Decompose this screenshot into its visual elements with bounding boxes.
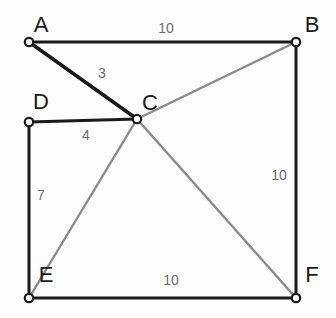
node-label-b: B (305, 12, 320, 37)
node-label-c: C (142, 90, 158, 115)
node-label-group: ABCDEF (33, 12, 319, 287)
edge-weight-d-c: 4 (82, 127, 90, 143)
light-edge-group (29, 42, 296, 298)
node-group (25, 38, 300, 302)
edge-weight-e-f: 10 (163, 272, 179, 288)
graph-canvas: 103471010 ABCDEF (0, 0, 336, 318)
edge-weight-b-f: 10 (271, 167, 287, 183)
node-d[interactable] (25, 118, 33, 126)
node-f[interactable] (292, 294, 300, 302)
edge-c-f (137, 119, 296, 298)
node-e[interactable] (25, 294, 33, 302)
node-label-e: E (39, 262, 54, 287)
edge-weight-label-group: 103471010 (37, 20, 287, 288)
node-c[interactable] (133, 115, 141, 123)
edge-weight-d-e: 7 (37, 187, 45, 203)
graph-diagram: 103471010 ABCDEF (0, 0, 336, 318)
node-label-a: A (34, 12, 49, 37)
edge-weight-a-b: 10 (158, 20, 174, 36)
node-label-d: D (33, 89, 49, 114)
node-b[interactable] (292, 38, 300, 46)
dark-edge-group (29, 42, 296, 298)
node-label-f: F (305, 262, 318, 287)
edge-d-c (29, 119, 137, 122)
node-a[interactable] (25, 38, 33, 46)
edge-weight-a-c: 3 (98, 65, 106, 81)
edge-c-b (137, 42, 296, 119)
